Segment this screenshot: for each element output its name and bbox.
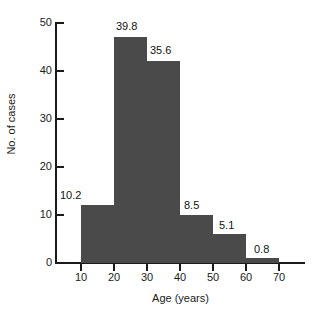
x-tick-mark-20 — [113, 264, 115, 271]
x-tick-mark-30 — [146, 264, 148, 271]
x-tick-mark-60 — [245, 264, 247, 271]
x-tick-label-10: 10 — [68, 272, 94, 283]
y-tick-label-50: 50 — [18, 17, 52, 28]
x-tick-mark-40 — [179, 264, 181, 271]
histogram-bar-40-50 — [180, 215, 213, 263]
x-axis-title: Age (years) — [0, 292, 317, 304]
plot-area — [56, 22, 305, 263]
x-tick-label-70: 70 — [266, 272, 292, 283]
bar-value-label-30-40: 35.6 — [150, 45, 171, 56]
bar-value-label-20-30: 39.8 — [116, 21, 137, 32]
bar-value-label-60-70: 0.8 — [254, 244, 269, 255]
x-tick-mark-50 — [212, 264, 214, 271]
histogram-bar-10-20 — [81, 205, 114, 263]
y-axis-title: No. of cases — [5, 69, 17, 179]
x-tick-mark-10 — [80, 264, 82, 271]
x-tick-mark-70 — [278, 264, 280, 271]
histogram-bar-50-60 — [213, 234, 246, 263]
x-tick-label-50: 50 — [200, 272, 226, 283]
y-tick-label-20: 20 — [18, 161, 52, 172]
histogram-bar-30-40 — [147, 61, 180, 263]
bar-value-label-50-60: 5.1 — [219, 220, 234, 231]
histogram-bar-20-30 — [114, 37, 147, 264]
bar-value-label-10-20: 10.2 — [60, 190, 81, 201]
bar-value-label-40-50: 8.5 — [184, 200, 199, 211]
y-tick-label-10: 10 — [18, 209, 52, 220]
y-tick-label-40: 40 — [18, 65, 52, 76]
x-tick-label-20: 20 — [101, 272, 127, 283]
y-tick-label-0: 0 — [18, 257, 52, 268]
histogram-chart: 50 40 30 20 10 0 10 20 30 40 50 60 70 10… — [0, 0, 317, 317]
histogram-bar-60-70 — [246, 258, 279, 263]
x-tick-label-30: 30 — [134, 272, 160, 283]
y-tick-label-30: 30 — [18, 113, 52, 124]
x-tick-label-40: 40 — [167, 272, 193, 283]
x-tick-label-60: 60 — [233, 272, 259, 283]
